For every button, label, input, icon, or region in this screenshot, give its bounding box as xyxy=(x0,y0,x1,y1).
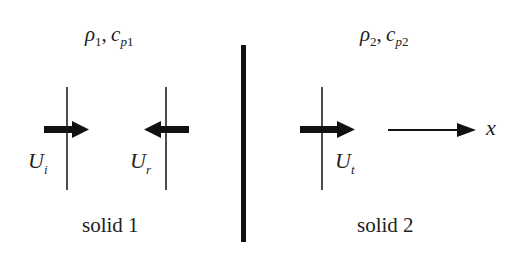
diagram-canvas: ρ1, cp1 ρ2, cp2 Ui Ur Ut x solid 1 solid… xyxy=(0,0,521,255)
solid1-properties-label: ρ1, cp1 xyxy=(85,24,133,48)
solid2-label: solid 2 xyxy=(357,215,414,236)
incident-wave-label: Ui xyxy=(28,150,48,176)
x-axis-label: x xyxy=(486,117,496,139)
transmitted-wave-label: Ut xyxy=(335,150,355,176)
diagram-graphics xyxy=(0,0,521,255)
reflected-wave-label: Ur xyxy=(130,150,151,176)
solid2-properties-label: ρ2, cp2 xyxy=(360,24,408,48)
solid1-label: solid 1 xyxy=(82,215,139,236)
transmitted-arrow-icon xyxy=(300,121,355,138)
x-axis-arrow-icon xyxy=(388,123,476,137)
interface-wall xyxy=(241,45,246,242)
